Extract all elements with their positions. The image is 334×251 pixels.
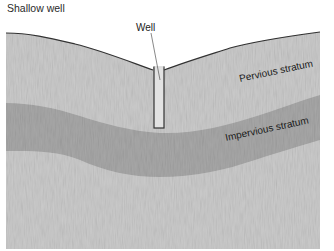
well-label: Well <box>136 22 155 33</box>
cross-section-diagram: Well Pervious stratum Impervious stratum <box>0 0 334 251</box>
